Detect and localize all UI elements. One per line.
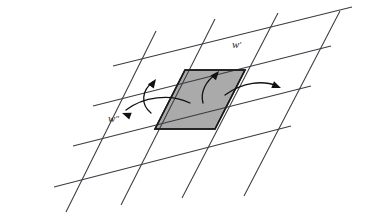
lattice-diagram: w′ w″ (0, 0, 374, 224)
label-w-double-prime: w″ (108, 112, 119, 124)
label-w-prime: w′ (232, 38, 242, 50)
lattice-diagram-canvas: w′ w″ (0, 0, 374, 224)
